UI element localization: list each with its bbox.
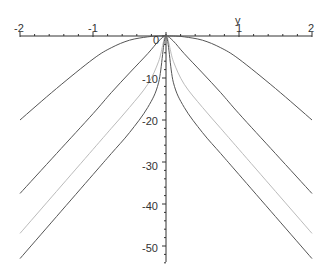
y-tick-label: 0: [153, 34, 159, 46]
axis-name-y: y: [235, 14, 241, 26]
y-tick-label: -20: [142, 115, 158, 127]
chart-plot: -2 -1 1 2 y 0 -10 -20 -30 -40 -50: [0, 0, 329, 279]
x-tick-label: -2: [14, 22, 24, 34]
y-tick-label: -50: [142, 242, 158, 254]
axes: [20, 32, 312, 263]
y-tick-label: -30: [142, 160, 158, 172]
y-tick-label: -40: [142, 200, 158, 212]
x-tick-label: -1: [88, 22, 98, 34]
x-tick-label: 2: [308, 22, 314, 34]
y-axis-ticks: [162, 36, 166, 263]
x-tick-labels: -2 -1 1 2 y: [14, 14, 314, 34]
y-tick-label: -10: [142, 73, 158, 85]
